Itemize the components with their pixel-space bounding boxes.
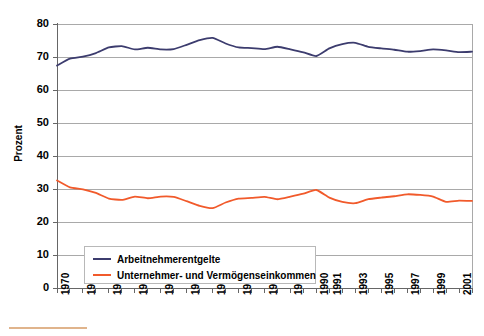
y-tick-label-60: 60 bbox=[23, 84, 49, 95]
legend-label-0: Arbeitnehmerentgelte bbox=[117, 254, 220, 265]
y-tick-label-80: 80 bbox=[23, 18, 49, 29]
x-tick-label-1997: 1997 bbox=[411, 273, 421, 295]
legend-color-swatch-orange bbox=[93, 274, 111, 276]
legend-item-arbeitnehmerentgelte: Arbeitnehmerentgelte bbox=[93, 251, 220, 267]
chart-legend: Arbeitnehmerentgelte Unternehmer- und Ve… bbox=[84, 246, 316, 284]
y-tick-label-50: 50 bbox=[23, 117, 49, 128]
x-tick-label-1999: 1999 bbox=[437, 273, 447, 295]
x-tick-label-1995: 1995 bbox=[385, 273, 395, 295]
line-chart: Prozent 01020304050607080 19701972197419… bbox=[0, 0, 484, 336]
legend-item-unternehmer-und-vermoegenseinkommen: Unternehmer- und Vermögenseinkommen bbox=[93, 267, 316, 283]
y-tick-label-40: 40 bbox=[23, 150, 49, 161]
y-tick-label-0: 0 bbox=[23, 282, 49, 293]
x-tick-label-2001: 2001 bbox=[463, 273, 473, 295]
x-tick-label-1970: 1970 bbox=[61, 273, 71, 295]
legend-color-swatch-blue bbox=[93, 258, 111, 260]
bottom-decorative-rule bbox=[9, 327, 87, 329]
y-tick-label-30: 30 bbox=[23, 183, 49, 194]
x-tick-label-1993: 1993 bbox=[359, 273, 369, 295]
y-axis-title: Prozent bbox=[13, 114, 24, 174]
x-tick-label-1991: 1991 bbox=[333, 273, 343, 295]
legend-label-1: Unternehmer- und Vermögenseinkommen bbox=[117, 270, 316, 281]
y-tick-label-70: 70 bbox=[23, 51, 49, 62]
x-tick-label-1990: 1990 bbox=[320, 273, 330, 295]
y-tick-label-20: 20 bbox=[23, 216, 49, 227]
y-tick-label-10: 10 bbox=[23, 249, 49, 260]
